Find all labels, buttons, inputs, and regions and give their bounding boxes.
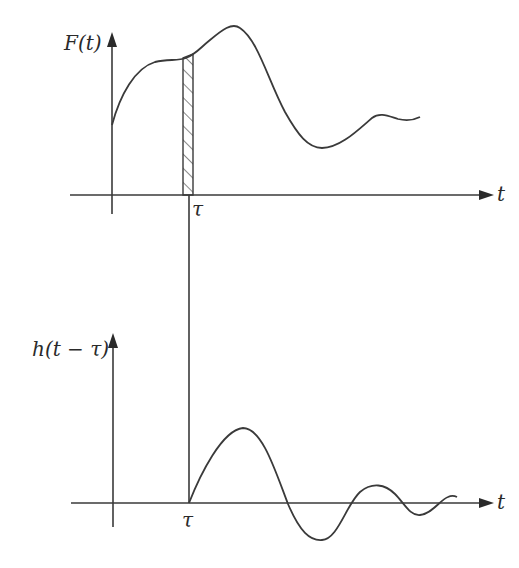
impulse-response-curve	[189, 428, 457, 540]
top-y-axis-arrow-icon	[107, 32, 117, 47]
convolution-diagram: F(t) t τ h(t − τ) t τ	[0, 0, 519, 568]
impulse-strip	[183, 54, 193, 195]
bottom-panel: h(t − τ) t τ	[32, 333, 506, 540]
bottom-y-axis-label: h(t − τ)	[32, 337, 109, 361]
top-tau-label: τ	[192, 197, 204, 221]
bottom-tau-label: τ	[182, 508, 194, 532]
top-x-axis-arrow-icon	[479, 190, 494, 200]
top-x-axis-label: t	[497, 182, 506, 206]
top-panel: F(t) t τ	[63, 26, 506, 221]
bottom-x-axis-arrow-icon	[479, 498, 494, 508]
bottom-x-axis-label: t	[497, 490, 506, 514]
input-curve	[112, 26, 420, 148]
top-y-axis-label: F(t)	[63, 31, 102, 55]
bottom-y-axis-arrow-icon	[108, 333, 118, 348]
